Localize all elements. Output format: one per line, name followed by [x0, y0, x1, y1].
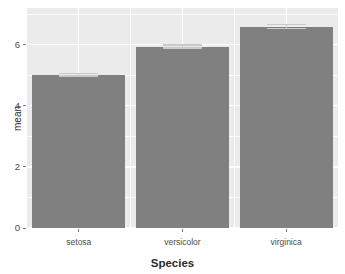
- errorbar-setosa: [59, 73, 98, 77]
- y-tick-mark: [23, 105, 26, 106]
- y-axis-title: mean: [13, 106, 23, 131]
- gridline-minor-x: [130, 8, 131, 228]
- x-tick-mark: [182, 229, 183, 232]
- bar-setosa: [32, 75, 125, 228]
- y-tick-mark: [23, 44, 26, 45]
- errorbar-cap-lower: [59, 75, 98, 77]
- plot-figure: 6420 mean setosaversicolorvirginica Spec…: [0, 0, 345, 274]
- plot-panel: [27, 8, 338, 228]
- x-tick-label-virginica: virginica: [241, 238, 331, 247]
- y-tick-label: 0: [4, 223, 20, 233]
- y-tick-label: 6: [4, 40, 20, 50]
- x-tick-label-versicolor: versicolor: [138, 238, 228, 247]
- x-tick-mark: [286, 229, 287, 232]
- errorbar-virginica: [267, 24, 306, 30]
- bar-virginica: [240, 27, 333, 228]
- y-tick-mark: [23, 166, 26, 167]
- y-tick-label: 2: [4, 162, 20, 172]
- x-tick-label-setosa: setosa: [34, 238, 124, 247]
- x-axis-title: Species: [0, 257, 345, 269]
- errorbar-cap-upper: [267, 24, 306, 26]
- errorbar-cap-upper: [163, 44, 202, 46]
- gridline-minor-x: [234, 8, 235, 228]
- errorbar-versicolor: [163, 44, 202, 48]
- errorbar-cap-lower: [163, 47, 202, 49]
- errorbar-cap-lower: [267, 28, 306, 30]
- errorbar-cap-upper: [59, 73, 98, 75]
- y-tick-mark: [23, 228, 26, 229]
- clipped-title-fragment: [26, 0, 226, 3]
- bar-versicolor: [136, 47, 229, 229]
- x-tick-mark: [78, 229, 79, 232]
